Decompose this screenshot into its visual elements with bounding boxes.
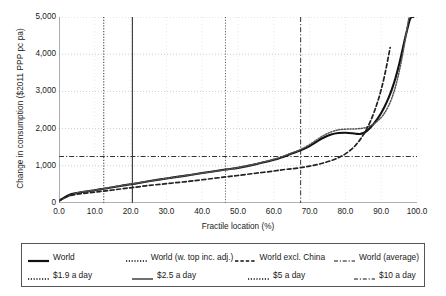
legend-item-label: $5 a day (273, 270, 305, 280)
legend-item-label: World (w. top inc. adj.) (151, 252, 234, 262)
y-tick-label: 1,000 (22, 162, 56, 170)
legend-item-label: $2.5 a day (157, 270, 196, 280)
y-tick-label: 2,000 (22, 125, 56, 133)
legend-item-label: $1.9 a day (53, 270, 92, 280)
legend-row: $1.9 a day$2.5 a day$5 a day$10 a day (27, 266, 419, 284)
y-tick-label: 0 (22, 199, 56, 207)
y-tick-label: 5,000 (22, 13, 56, 21)
legend-swatch (125, 256, 148, 266)
x-tick-label: 30.0 (146, 207, 186, 216)
chart-legend: WorldWorld (w. top inc. adj.)World excl.… (21, 243, 425, 287)
x-tick-label: 0.0 (39, 207, 79, 216)
legend-line-icon (125, 252, 148, 262)
legend-line-icon (353, 270, 376, 280)
legend-swatch (131, 274, 154, 284)
legend-line-icon (333, 252, 356, 262)
series-line (59, 48, 390, 201)
x-tick-label: 60.0 (254, 207, 294, 216)
legend-item[interactable]: $10 a day (353, 266, 419, 284)
x-tick-label: 10.0 (75, 207, 115, 216)
legend-swatch (333, 256, 356, 266)
x-tick-label: 20.0 (111, 207, 151, 216)
legend-item[interactable]: World (27, 248, 125, 266)
legend-item-label: World excl. China (260, 252, 325, 262)
legend-swatch (247, 274, 270, 284)
x-tick-label: 80.0 (325, 207, 365, 216)
series-line (59, 17, 413, 201)
legend-item[interactable]: World (average) (333, 248, 419, 266)
legend-item[interactable]: $1.9 a day (27, 266, 131, 284)
legend-item[interactable]: $5 a day (247, 266, 353, 284)
legend-line-icon (131, 270, 154, 280)
legend-row: WorldWorld (w. top inc. adj.)World excl.… (27, 248, 419, 266)
plot-area (59, 17, 417, 203)
x-tick-label: 90.0 (361, 207, 401, 216)
legend-item-label: World (average) (359, 252, 419, 262)
legend-swatch (234, 256, 257, 266)
legend-item[interactable]: World excl. China (234, 248, 334, 266)
x-axis-title: Fractile location (%) (59, 222, 417, 231)
legend-line-icon (27, 270, 50, 280)
legend-item-label: World (53, 252, 75, 262)
legend-item[interactable]: $2.5 a day (131, 266, 247, 284)
y-tick-label: 4,000 (22, 50, 56, 58)
legend-line-icon (234, 252, 257, 262)
legend-swatch (27, 274, 50, 284)
x-tick-label: 100.0 (397, 207, 437, 216)
x-tick-label: 70.0 (290, 207, 330, 216)
chart-container: Change in consumption ($2011 PPP pc pa) … (0, 0, 446, 296)
x-tick-label: 40.0 (182, 207, 222, 216)
legend-item-label: $10 a day (379, 270, 416, 280)
legend-item[interactable]: World (w. top inc. adj.) (125, 248, 234, 266)
y-tick-label: 3,000 (22, 87, 56, 95)
plot-svg (59, 17, 417, 203)
legend-line-icon (247, 270, 270, 280)
legend-swatch (27, 256, 50, 266)
series-line (59, 17, 411, 201)
x-tick-label: 50.0 (218, 207, 258, 216)
legend-swatch (353, 274, 376, 284)
legend-line-icon (27, 252, 50, 262)
x-axis-tick-labels: 0.010.020.030.040.050.060.070.080.090.01… (0, 207, 446, 221)
